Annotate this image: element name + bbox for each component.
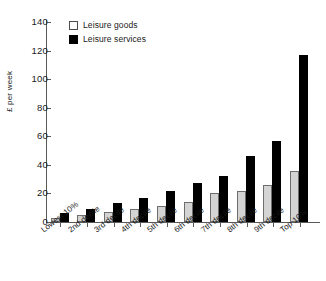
bar-leisure-services	[299, 55, 308, 222]
x-tick	[60, 223, 61, 227]
y-tick-label: 40	[37, 160, 48, 170]
x-tick	[87, 223, 88, 227]
chart-legend: Leisure goods Leisure services	[69, 19, 146, 47]
y-tick-label: 80	[37, 103, 48, 113]
x-tick	[167, 223, 168, 227]
x-tick	[140, 223, 141, 227]
y-tick-label: 20	[37, 188, 48, 198]
y-tick-label: 140	[32, 17, 48, 27]
y-axis-title: £ per week	[6, 52, 14, 112]
legend-swatch-goods-icon	[69, 21, 78, 30]
y-tick-label: 60	[37, 131, 48, 141]
y-tick-label: 120	[32, 46, 48, 56]
y-tick-label: 100	[32, 74, 48, 84]
legend-item-leisure-services: Leisure services	[69, 33, 146, 45]
x-tick	[193, 223, 194, 227]
legend-label-services: Leisure services	[83, 35, 146, 44]
legend-item-leisure-goods: Leisure goods	[69, 19, 146, 31]
x-tick	[273, 223, 274, 227]
legend-swatch-services-icon	[69, 35, 78, 44]
legend-label-goods: Leisure goods	[83, 21, 138, 30]
x-tick	[247, 223, 248, 227]
x-tick	[300, 223, 301, 227]
x-tick	[220, 223, 221, 227]
x-tick	[114, 223, 115, 227]
bar-chart: £ per week 020406080100120140 Lowest 10%…	[0, 0, 326, 281]
